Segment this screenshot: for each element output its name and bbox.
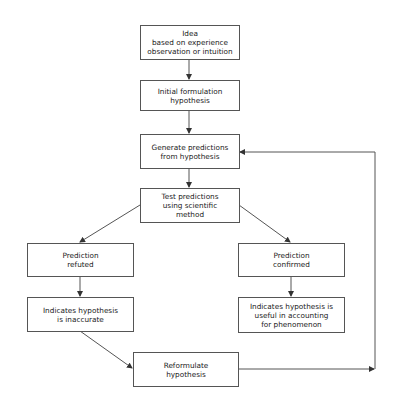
edge-test-confirmed bbox=[239, 205, 290, 242]
node-test-label: Test predictions using scientific method bbox=[161, 192, 218, 219]
node-inaccurate-label: Indicates hypothesis is inaccurate bbox=[43, 306, 118, 324]
node-generate-predictions: Generate predictions from hypothesis bbox=[140, 134, 240, 169]
node-prediction-confirmed: Prediction confirmed bbox=[238, 243, 345, 277]
node-reformulate-hypothesis: Reformulate hypothesis bbox=[133, 352, 239, 387]
node-test-predictions: Test predictions using scientific method bbox=[140, 188, 240, 223]
node-confirmed-label: Prediction confirmed bbox=[273, 251, 310, 269]
node-prediction-refuted: Prediction refuted bbox=[27, 243, 134, 277]
node-indicates-useful: Indicates hypothesis is useful in accoun… bbox=[238, 297, 345, 333]
node-generate-label: Generate predictions from hypothesis bbox=[152, 143, 229, 161]
node-initial-formulation: Initial formulation hypothesis bbox=[140, 80, 240, 111]
node-indicates-inaccurate: Indicates hypothesis is inaccurate bbox=[27, 297, 134, 332]
node-initial-label: Initial formulation hypothesis bbox=[158, 87, 223, 105]
edge-test-refuted bbox=[80, 205, 140, 242]
node-refuted-label: Prediction refuted bbox=[62, 251, 98, 269]
node-idea: Idea based on experience observation or … bbox=[140, 25, 240, 60]
node-idea-label: Idea based on experience observation or … bbox=[147, 29, 232, 56]
node-useful-label: Indicates hypothesis is useful in accoun… bbox=[250, 302, 333, 329]
edge-inaccurate-reformulate bbox=[80, 331, 132, 368]
node-reformulate-label: Reformulate hypothesis bbox=[164, 361, 209, 379]
